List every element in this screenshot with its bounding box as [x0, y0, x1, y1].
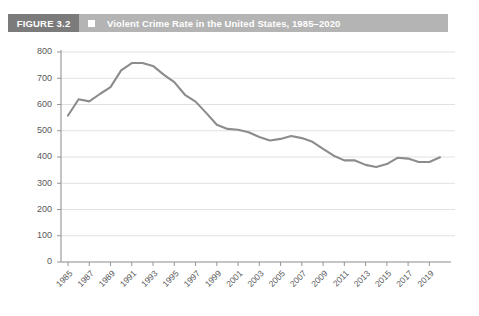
x-tick-label: 2007 [288, 268, 309, 289]
x-tick-label: 1997 [182, 268, 203, 289]
figure-title: Violent Crime Rate in the United States,… [107, 18, 340, 29]
figure-header: FIGURE 3.2 Violent Crime Rate in the Uni… [8, 14, 448, 32]
x-tick-label: 1991 [118, 268, 139, 289]
y-tick-label: 0 [47, 256, 52, 266]
figure-number-block: FIGURE 3.2 [8, 14, 79, 32]
y-tick-label: 700 [37, 73, 52, 83]
y-tick-label: 200 [37, 204, 52, 214]
x-tick-label: 2003 [245, 268, 266, 289]
x-tick-label: 1989 [96, 268, 117, 289]
x-tick-label: 1985 [54, 268, 75, 289]
y-tick-label: 500 [37, 125, 52, 135]
x-tick-label: 2015 [373, 268, 394, 289]
y-tick-label: 300 [37, 178, 52, 188]
y-tick-label: 800 [37, 46, 52, 56]
x-tick-label: 2005 [267, 268, 288, 289]
x-tick-label: 2011 [331, 268, 351, 288]
x-tick-label: 2017 [394, 268, 415, 289]
x-tick-label: 1995 [160, 268, 181, 289]
gridlines [61, 52, 455, 236]
x-tick-label: 2013 [352, 268, 373, 289]
x-axis-ticks [68, 262, 429, 266]
figure-number-label: FIGURE 3.2 [17, 18, 71, 29]
x-tick-label: 2009 [309, 268, 330, 289]
x-tick-label: 2001 [224, 268, 245, 289]
y-axis-labels: 8007006005004003002001000 [37, 46, 52, 266]
y-tick-label: 100 [37, 230, 52, 240]
chart-container: 8007006005004003002001000 19851987198919… [0, 38, 479, 316]
y-tick-label: 400 [37, 151, 52, 161]
x-tick-label: 2019 [415, 268, 436, 289]
y-axis-ticks [57, 52, 61, 262]
x-tick-label: 1987 [75, 268, 96, 289]
square-bullet-icon [88, 20, 95, 27]
y-tick-label: 600 [37, 99, 52, 109]
line-chart: 8007006005004003002001000 19851987198919… [0, 38, 479, 316]
x-axis-labels: 1985198719891991199319951997199920012003… [54, 268, 436, 289]
x-tick-label: 1993 [139, 268, 160, 289]
x-tick-label: 1999 [203, 268, 224, 289]
